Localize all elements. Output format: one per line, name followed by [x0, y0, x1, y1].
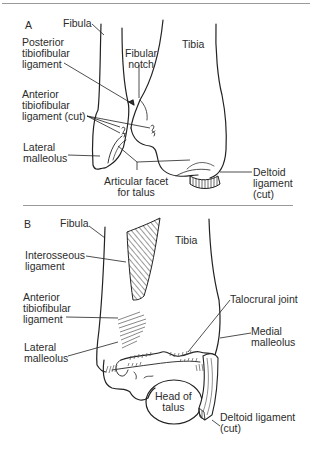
label-a-posterior-tibiofibular-ligament: Posterior tibiofibular ligament [22, 37, 70, 70]
panel-b-letter: B [24, 218, 31, 230]
panel-a-letter: A [25, 19, 32, 31]
label-b-medial-malleolus: Medial malleolus [251, 326, 295, 348]
label-b-head-of-talus: Head of talus [155, 391, 192, 413]
label-a-tibia: Tibia [182, 39, 204, 50]
label-a-anterior-tibiofibular-ligament-cut: Anterior tibiofibular ligament (cut) [22, 89, 86, 122]
label-b-fibula: Fibula [60, 218, 89, 229]
ankle-anatomy-figure: A Fibula Tibia Posterior tibiofibular li… [0, 0, 314, 449]
label-a-articular-facet-for-talus: Articular facet for talus [104, 176, 168, 198]
label-a-deltoid-ligament-cut: Deltoid ligament (cut) [253, 167, 293, 200]
label-a-fibular-notch: Fibular notch [125, 48, 157, 70]
label-b-lateral-malleolus: Lateral malleolus [24, 342, 68, 364]
panel-a-deltoid-stub [190, 176, 220, 189]
label-b-deltoid-ligament-cut: Deltoid ligament (cut) [220, 412, 295, 434]
label-a-fibula: Fibula [63, 18, 92, 29]
label-b-interosseous-ligament: Interosseous ligament [25, 250, 85, 272]
label-b-anterior-tibiofibular-ligament: Anterior tibiofibular ligament [23, 292, 71, 325]
panel-b-interosseous [127, 218, 160, 300]
label-a-lateral-malleolus: Lateral malleolus [23, 142, 67, 164]
label-b-tibia: Tibia [175, 235, 197, 246]
panel-b-deltoid-band [199, 354, 218, 420]
label-b-talocrural-joint: Talocrural joint [230, 294, 298, 305]
panel-a-drawing [93, 20, 227, 178]
panel-b-anterior-ligament-fibres [118, 312, 146, 348]
